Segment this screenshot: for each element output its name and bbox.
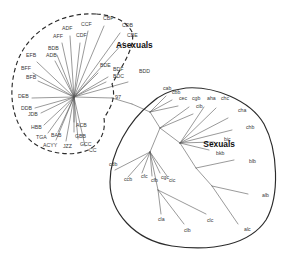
tip-label-CBF: CBF	[103, 15, 113, 21]
tip-label-EFB: EFB	[26, 52, 37, 58]
tip-label-cab: cab	[163, 85, 171, 91]
asexual-cluster-outline	[12, 14, 133, 154]
tip-label-TGA: TGA	[36, 134, 47, 140]
sexual-branch	[158, 190, 206, 214]
tip-label-DEB: DEB	[18, 93, 29, 99]
tip-label-ACB: ACB	[76, 122, 87, 128]
sexual-branch	[150, 100, 172, 112]
tip-label-cha: cha	[238, 107, 246, 113]
asexual-branch	[37, 62, 74, 97]
tip-label-chc: chc	[221, 95, 229, 101]
tip-label-BDB: BDB	[48, 45, 59, 51]
tip-label-cdb: cdb	[109, 161, 117, 167]
tip-label-BFF: BFF	[21, 65, 31, 71]
sexual-branch	[150, 96, 166, 112]
tip-label-ccb: ccb	[124, 176, 132, 182]
tip-label-cib: cib	[196, 103, 203, 109]
tip-label-cla: cla	[158, 216, 165, 222]
phylogenetic-tree-svg: CCFCBFCDBCBEADFAFFCDFBDBADBEFBBFFBFBDEBD…	[0, 0, 286, 254]
tip-label-bkb: bkb	[216, 150, 224, 156]
sexual-branch	[196, 168, 212, 186]
asexuals-group-label: Asexuals	[116, 40, 153, 50]
tip-label-chb: chb	[246, 124, 254, 130]
sexual-branch	[150, 112, 160, 128]
tip-label-CDB: CDB	[122, 22, 133, 28]
bootstrap-support-value: 97	[115, 94, 121, 100]
tip-label-alc: alc	[244, 226, 251, 232]
tip-label-BDE: BDE	[100, 62, 111, 68]
tip-label-CCF: CCF	[81, 21, 92, 27]
tip-label-ADB: ADB	[46, 52, 57, 58]
sexual-branch	[180, 108, 216, 143]
tip-label-BDC: BDC	[113, 73, 124, 79]
tip-label-cfc: cfc	[141, 173, 148, 179]
sexual-branch	[115, 152, 150, 170]
tip-label-cfb: cfb	[151, 177, 158, 183]
tip-label-aha: aha	[207, 95, 216, 101]
tip-label-cec: cec	[179, 95, 187, 101]
tip-label-CBE: CBE	[127, 32, 138, 38]
sexual-branch	[142, 152, 150, 173]
sexual-branch	[196, 160, 234, 168]
sexuals-group-label: Sexuals	[203, 139, 235, 149]
sexual-branch	[150, 106, 178, 112]
tip-label-JZZ: JZZ	[63, 143, 72, 149]
tip-label-clb: clb	[184, 227, 191, 233]
tip-label-clc: clc	[207, 217, 214, 223]
tip-label-BFB: BFB	[26, 74, 37, 80]
tip-label-BDF: BDF	[113, 66, 123, 72]
tip-label-GBB: GBB	[75, 133, 86, 139]
tip-label-BAB: BAB	[51, 132, 62, 138]
tip-label-HBB: HBB	[31, 124, 42, 130]
branch-layer	[32, 26, 248, 224]
sexual-cluster-outline	[110, 88, 276, 248]
tip-label-blb: blb	[249, 158, 256, 164]
tip-label-BDD: BDD	[139, 68, 150, 74]
tip-label-CC: CC	[89, 147, 97, 153]
tip-label-ACYY: ACYY	[43, 142, 58, 148]
asexual-branch	[74, 43, 80, 97]
tip-label-alb: alb	[262, 192, 269, 198]
tip-label-JDB: JDB	[28, 111, 38, 117]
tip-label-cic: cic	[169, 177, 176, 183]
asexual-branch	[32, 97, 74, 98]
sexual-branch	[160, 128, 180, 143]
tip-label-ADF: ADF	[62, 25, 72, 31]
tip-label-AFF: AFF	[53, 33, 63, 39]
inter-clade-branch	[132, 104, 150, 112]
sexual-branch	[212, 186, 248, 194]
tip-label-cgb: cgb	[192, 95, 200, 101]
inter-clade-branch	[74, 97, 112, 98]
sexual-branch	[150, 128, 160, 152]
tip-label-CDF: CDF	[76, 32, 87, 38]
figure-canvas: CCFCBFCDBCBEADFAFFCDFBDBADBEFBBFFBFBDEBD…	[0, 0, 286, 254]
sexual-branch	[212, 186, 238, 224]
sexual-branch	[180, 143, 196, 168]
